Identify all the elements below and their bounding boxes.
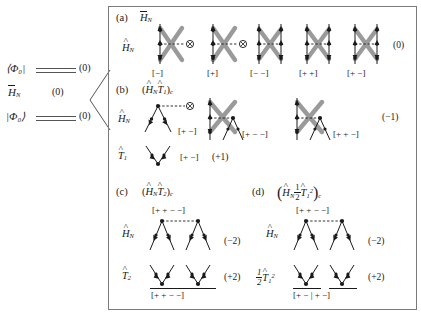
- panel-b-letter: (b): [116, 84, 128, 95]
- panel-b-t1-operator: T1: [118, 150, 127, 161]
- panel-c-t2-result: (+2): [224, 272, 240, 282]
- diagram-a-1-label: [−]: [152, 68, 163, 78]
- left-operator-value: (0): [52, 86, 64, 97]
- panel-d-t1sq-operator: 12T12: [256, 268, 275, 287]
- left-level-block: ⟨Φ₀| (0) HN (0) |Φ₀⟩ (0): [0, 0, 108, 314]
- diagram-a-4: [300, 22, 340, 66]
- diagram-a-5-label: [+ −]: [347, 68, 365, 78]
- panel-d-letter: (d): [252, 186, 264, 197]
- panel-b-t1-result: (+1): [212, 152, 228, 162]
- panel-b-header: (HNT1)c: [142, 84, 173, 95]
- panel-d-baseline-right: [329, 288, 357, 289]
- diagram-c-t2: [148, 262, 220, 290]
- panel-a-letter: (a): [116, 12, 128, 23]
- panel-c-letter: (c): [116, 186, 128, 197]
- panel-c-top-label: [+ + − −]: [152, 205, 185, 215]
- diagram-a-1: [152, 22, 198, 66]
- panel-c-h-operator: HN: [122, 228, 134, 239]
- panel-a-row-operator: HN: [122, 42, 134, 53]
- panel-a-result: (0): [393, 40, 404, 50]
- ket-text: |Φ₀⟩: [6, 110, 25, 122]
- panel-b-result: (−1): [382, 112, 398, 122]
- bra-text: ⟨Φ₀|: [6, 62, 25, 74]
- panel-d-h-result: (−2): [368, 236, 384, 246]
- diagram-b-t1-label: [+ −]: [180, 152, 198, 162]
- bra-label: ⟨Φ₀|: [6, 62, 25, 75]
- panel-c-header: (HNT2)c: [142, 186, 173, 197]
- diagram-d-h: [292, 216, 364, 254]
- figure-root: ⟨Φ₀| (0) HN (0) |Φ₀⟩ (0) (a) HN HN: [0, 0, 421, 314]
- bra-level-line: [36, 68, 76, 73]
- panel-d-top-label: [+ + − −]: [296, 205, 329, 215]
- panel-b-h-operator: HN: [118, 113, 130, 124]
- panel-d-t1sq-result: (+2): [368, 272, 384, 282]
- panel-c-h-result: (−2): [224, 236, 240, 246]
- ket-level-line: [36, 116, 76, 121]
- diagram-b-t1: [142, 142, 176, 168]
- diagram-b-2-label: [+ − −]: [242, 129, 268, 139]
- diagram-a-2: [205, 22, 251, 66]
- panel-d-h-operator: HN: [266, 228, 278, 239]
- diagram-a-4-label: [+ +]: [299, 68, 317, 78]
- left-operator-label: HN: [8, 86, 20, 98]
- diagram-b-1-label: [+ −]: [178, 126, 196, 136]
- diagram-a-3: [252, 22, 292, 66]
- ket-label: |Φ₀⟩: [6, 110, 25, 123]
- panel-d-bottom-label: [+ − | + −]: [293, 290, 330, 300]
- diagram-b-3-label: [+ + −]: [333, 129, 359, 139]
- panel-c-bottom-label: [+ + − −]: [151, 290, 184, 300]
- panel-c-baseline: [150, 288, 216, 289]
- panel-a-header: HN: [140, 12, 152, 23]
- diagram-d-t1sq: [292, 262, 364, 290]
- diagram-a-2-label: [+]: [207, 68, 218, 78]
- panel-d-baseline-left: [293, 288, 321, 289]
- diagram-a-5: [348, 22, 388, 66]
- panel-c-t2-operator: T2: [122, 270, 131, 281]
- h-bar-symbol: H: [8, 86, 16, 98]
- diagram-a-3-label: [− −]: [250, 68, 268, 78]
- panel-d-header: (HN12T12)c: [277, 183, 321, 202]
- diagram-c-h: [148, 216, 220, 254]
